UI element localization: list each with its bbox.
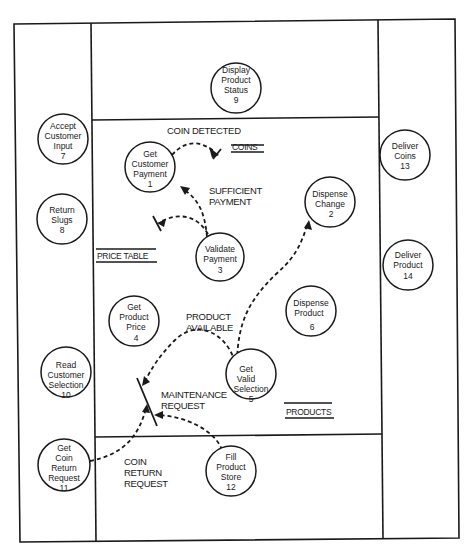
svg-text:Slugs: Slugs	[51, 215, 72, 225]
svg-text:Input: Input	[54, 141, 74, 151]
flow-price-lookup	[160, 216, 208, 234]
svg-text:Dispense: Dispense	[312, 189, 348, 199]
svg-text:Get: Get	[57, 443, 71, 453]
flow-sufficient-payment	[183, 189, 207, 237]
process-13: Deliver Coins 13	[380, 130, 430, 180]
svg-text:4: 4	[134, 333, 139, 343]
svg-text:Deliver: Deliver	[395, 250, 422, 260]
svg-text:10: 10	[61, 390, 71, 400]
top-panel-divider	[92, 117, 379, 120]
flow-product-available	[145, 330, 235, 382]
arrowhead	[180, 186, 190, 195]
svg-text:Store: Store	[221, 472, 242, 482]
svg-text:13: 13	[400, 161, 410, 171]
svg-text:Product: Product	[119, 312, 149, 322]
process-6: Dispense Product 6	[286, 286, 336, 336]
svg-text:Status: Status	[224, 85, 248, 95]
label-maintenance-2: REQUEST	[161, 400, 205, 411]
svg-text:Payment: Payment	[133, 169, 167, 179]
svg-text:Valid: Valid	[237, 374, 256, 384]
store-price-table-label: PRICE TABLE	[97, 251, 149, 261]
label-product-available-2: AVAILABLE	[186, 322, 233, 333]
svg-text:Read: Read	[56, 360, 77, 370]
svg-text:Fill: Fill	[226, 452, 237, 462]
svg-text:Change: Change	[315, 199, 345, 209]
svg-text:Selection: Selection	[234, 384, 269, 394]
data-flow-diagram: COINS PRICE TABLE PRODUCTS	[0, 0, 472, 557]
process-1: Get Customer Payment 1	[125, 142, 175, 192]
label-coin-return-3: REQUEST	[124, 478, 168, 489]
svg-text:Get: Get	[143, 149, 157, 159]
right-panel-divider	[378, 20, 383, 539]
label-coin-return-2: RETURN	[124, 467, 162, 478]
label-coin-return-1: COIN	[124, 456, 147, 467]
svg-text:Dispense: Dispense	[293, 298, 329, 308]
arrowhead	[142, 376, 150, 386]
svg-text:12: 12	[226, 482, 236, 492]
svg-text:2: 2	[329, 209, 334, 219]
process-10: Read Customer Selection 10	[41, 347, 91, 400]
process-11: Get Coin Return Request 11	[38, 439, 90, 493]
svg-text:9: 9	[234, 95, 239, 105]
svg-text:11: 11	[60, 483, 69, 493]
process-9: Display Product Status 9	[211, 63, 261, 113]
maintenance-terminator	[137, 378, 157, 426]
label-coin-detected: COIN DETECTED	[167, 125, 241, 136]
svg-text:Display: Display	[222, 65, 251, 75]
svg-text:Customer: Customer	[132, 159, 169, 169]
svg-text:Selection: Selection	[49, 380, 84, 390]
svg-text:Product: Product	[216, 462, 246, 472]
store-products: PRODUCTS	[284, 403, 334, 418]
store-price-table: PRICE TABLE	[96, 249, 157, 262]
svg-text:Product: Product	[294, 308, 324, 318]
label-maintenance-1: MAINTENANCE	[161, 389, 227, 400]
svg-text:Coins: Coins	[394, 151, 416, 161]
process-4: Get Product Price 4	[109, 296, 159, 346]
process-14: Deliver Product 14	[383, 240, 433, 290]
process-5: Get Valid Selection 5	[226, 349, 276, 404]
svg-text:Customer: Customer	[48, 370, 85, 380]
svg-text:Get: Get	[239, 364, 253, 374]
svg-text:Price: Price	[126, 322, 146, 332]
svg-text:Product: Product	[221, 75, 251, 85]
svg-text:Accept: Accept	[50, 121, 77, 131]
svg-text:8: 8	[60, 225, 65, 235]
svg-text:1: 1	[148, 179, 153, 189]
svg-text:Validate: Validate	[205, 244, 235, 254]
label-sufficient-2: PAYMENT	[209, 196, 252, 207]
process-7: Accept Customer Input 7	[38, 114, 88, 164]
store-coins-label: COINS	[232, 142, 258, 152]
store-products-label: PRODUCTS	[286, 407, 332, 417]
svg-text:Return: Return	[49, 205, 75, 215]
svg-text:3: 3	[218, 265, 223, 275]
flow-coin-detected	[172, 143, 215, 155]
svg-text:5: 5	[249, 394, 254, 404]
svg-text:Payment: Payment	[203, 254, 237, 264]
arrowhead	[154, 411, 163, 419]
process-8: Return Slugs 8	[37, 194, 87, 244]
process-2: Dispense Change 2	[305, 177, 355, 227]
process-12: Fill Product Store 12	[206, 446, 256, 496]
store-coins: COINS	[231, 142, 264, 152]
svg-text:Return: Return	[51, 463, 77, 473]
svg-text:Coin: Coin	[55, 453, 73, 463]
flow-maintenance-request	[157, 415, 222, 450]
svg-text:Request: Request	[48, 473, 80, 483]
svg-text:14: 14	[403, 271, 413, 281]
svg-text:Product: Product	[393, 260, 423, 270]
label-sufficient-1: SUFFICIENT	[209, 185, 262, 196]
process-3: Validate Payment 3	[196, 233, 244, 281]
left-panel-divider	[91, 23, 96, 541]
bottom-panel-divider	[95, 434, 382, 437]
svg-text:6: 6	[310, 322, 315, 332]
label-product-available-1: PRODUCT	[186, 311, 231, 322]
flow-coin-return-request	[90, 408, 146, 461]
svg-text:Customer: Customer	[45, 131, 82, 141]
svg-text:Deliver: Deliver	[392, 141, 419, 151]
svg-text:Get: Get	[127, 302, 141, 312]
svg-text:7: 7	[61, 151, 66, 161]
